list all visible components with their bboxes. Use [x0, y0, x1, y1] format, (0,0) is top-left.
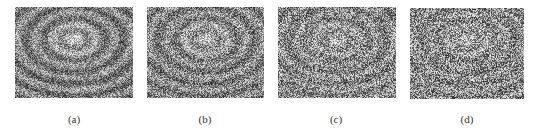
panel-d-image	[410, 8, 524, 99]
panel-d	[410, 8, 524, 99]
panel-b-caption: (b)	[185, 113, 225, 125]
panel-a	[15, 7, 133, 98]
panel-b	[147, 7, 264, 98]
panel-d-caption: (d)	[447, 113, 487, 125]
panel-a-caption: (a)	[54, 113, 94, 125]
panel-c-image	[278, 7, 396, 98]
panel-c-caption: (c)	[316, 113, 356, 125]
panel-a-image	[15, 7, 133, 98]
figure: (a) (b) (c) (d)	[0, 0, 539, 139]
panel-c	[278, 7, 396, 98]
panel-b-image	[147, 7, 264, 98]
